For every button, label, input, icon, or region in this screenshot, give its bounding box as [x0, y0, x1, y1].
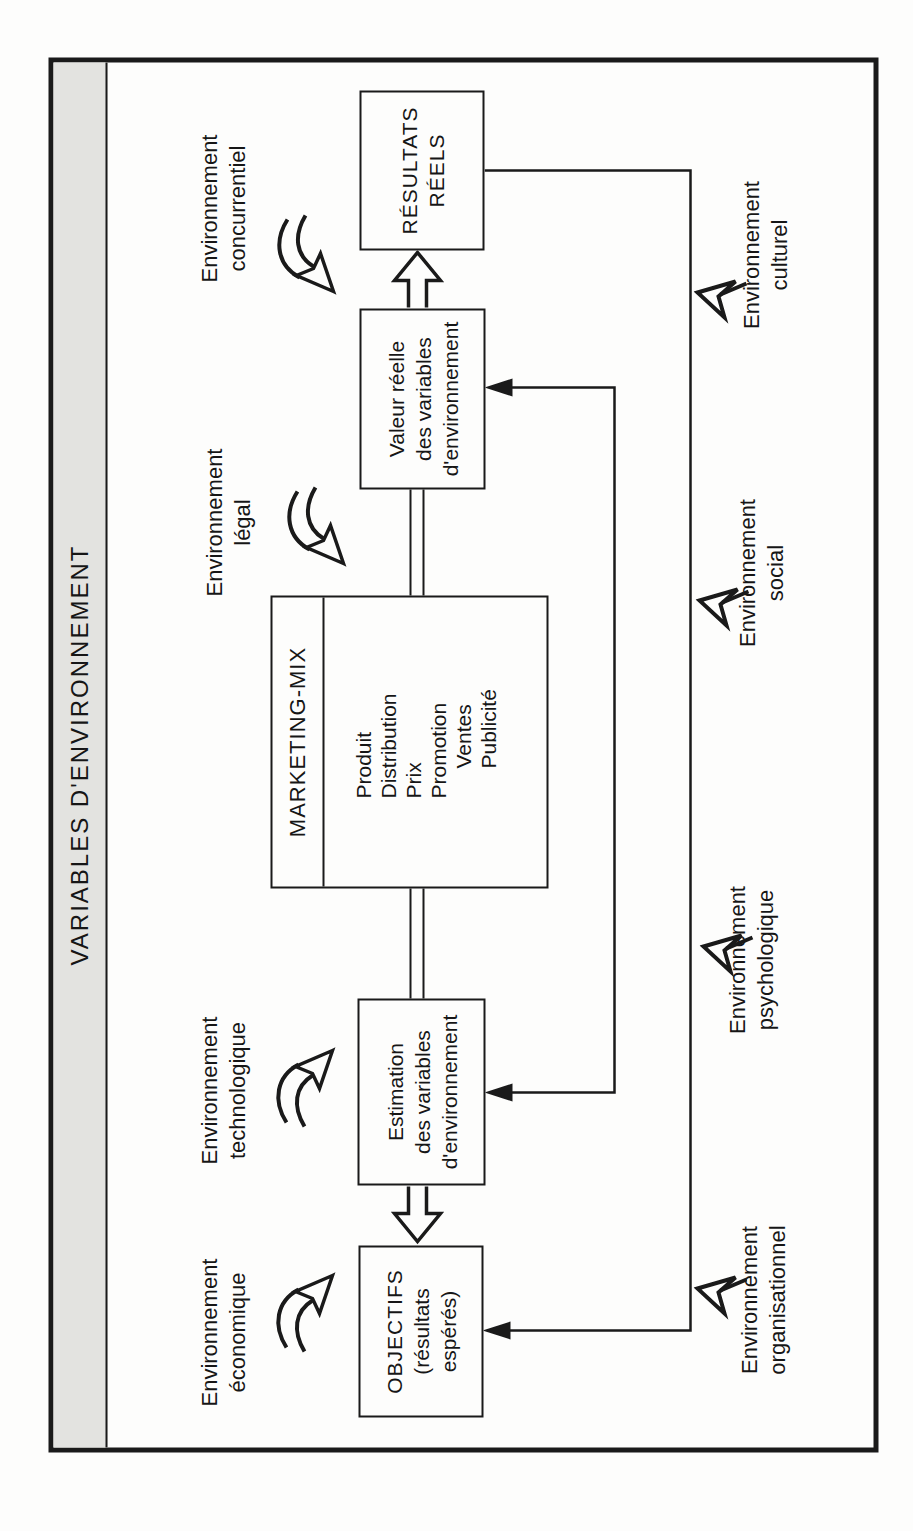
box-estimation: Estimation des variables d'environnement [357, 998, 485, 1185]
chevron-arrow-psychologique-icon [699, 925, 757, 979]
label-environnement-culturel: Environnement culturel [737, 142, 793, 367]
curved-arrow-economique-icon [270, 1271, 342, 1355]
label-environnement-economique: Environnement économique [195, 1237, 251, 1427]
label-environnement-legal: Environnement légal [200, 427, 256, 617]
mm-item-produit: Produit [350, 597, 375, 798]
mm-item-prix: Prix [400, 597, 425, 798]
diagram-frame: VARIABLES D'ENVIRONNEMENT OBJECTIFS (rés… [48, 57, 878, 1452]
box-objectifs: OBJECTIFS (résultats espérés) [358, 1245, 483, 1417]
mm-item-distribution: Distribution [375, 597, 400, 798]
block-arrow-estimation-to-objectifs-icon [389, 1185, 445, 1245]
chevron-arrow-organisationnel-icon [693, 1267, 751, 1321]
label-environnement-technologique: Environnement technologique [195, 995, 251, 1185]
double-line-connector-mm-valeur [409, 489, 424, 595]
marketing-mix-items: Produit Distribution Prix Promotion Vent… [324, 597, 500, 886]
scanned-diagram-page: VARIABLES D'ENVIRONNEMENT OBJECTIFS (rés… [0, 0, 913, 1531]
curved-arrow-technologique-icon [270, 1046, 342, 1130]
mm-item-publicite: Publicité [475, 597, 500, 768]
curved-arrow-legal-icon [281, 483, 353, 567]
block-arrow-valeur-to-resultats-icon [389, 250, 445, 308]
mm-item-ventes: Ventes [450, 597, 475, 768]
label-environnement-social: Environnement social [733, 460, 789, 685]
box-resultats-reels: RÉSULTATS RÉELS [359, 90, 484, 250]
mm-item-promotion: Promotion [425, 597, 450, 798]
arrowhead-into-objectifs [482, 1321, 510, 1339]
chevron-arrow-culturel-icon [693, 271, 751, 325]
chevron-arrow-social-icon [695, 579, 753, 633]
curved-arrow-concurrentiel-icon [271, 211, 343, 295]
marketing-mix-header: MARKETING-MIX [272, 597, 324, 886]
box-marketing-mix: MARKETING-MIX Produit Distribution Prix … [270, 595, 548, 888]
arrowhead-into-estimation [484, 1083, 512, 1101]
arrowhead-into-valeur-reelle [484, 378, 512, 396]
double-line-connector-estimation-mm [409, 888, 424, 998]
box-valeur-reelle: Valeur réelle des variables d'environnem… [359, 308, 485, 489]
label-environnement-concurrentiel: Environnement concurrentiel [195, 113, 251, 303]
